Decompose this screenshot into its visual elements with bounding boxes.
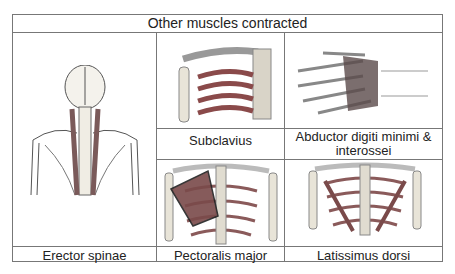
label-abductor-line2: interossei [285,143,442,158]
label-erector-spinae: Erector spinae [13,248,156,263]
table-title: Other muscles contracted [13,16,442,31]
label-pectoralis-major: Pectoralis major [157,248,284,263]
header-divider [13,32,442,33]
back-ribcage-icon [303,161,427,237]
label-abductor-line1: Abductor digiti minimi & [285,129,442,144]
row-divider-mid-bottom [156,159,442,160]
shoulder-clavicle-icon [173,37,283,125]
label-subclavius: Subclavius [157,133,284,148]
row-divider-bottom [13,246,442,247]
label-latissimus-dorsi: Latissimus dorsi [285,248,442,263]
muscle-table: Other muscles contracted Erector spinae … [12,14,443,262]
back-spine-skeleton-icon [25,65,145,205]
hand-muscles-icon [293,41,433,121]
chest-ribcage-icon [163,161,279,245]
